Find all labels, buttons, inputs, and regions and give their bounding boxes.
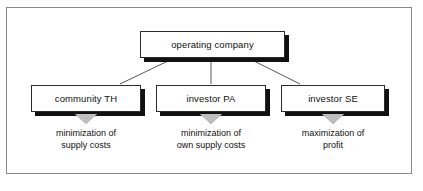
objective-line-1: maximization of xyxy=(273,128,393,140)
down-triangle-icon xyxy=(75,114,97,124)
objective-line-2: profit xyxy=(273,140,393,152)
node-investor-pa-label: investor PA xyxy=(187,94,236,104)
node-community-th-label: community TH xyxy=(55,94,117,104)
objective-line-1: minimization of xyxy=(26,128,146,140)
node-investor-pa[interactable]: investor PA xyxy=(156,85,266,112)
down-triangle-icon xyxy=(322,114,344,124)
node-community-th[interactable]: community TH xyxy=(31,85,141,112)
node-investor-se-label: investor SE xyxy=(308,94,358,104)
objective-investor-se: maximization of profit xyxy=(273,128,393,151)
objective-investor-pa: minimization of own supply costs xyxy=(151,128,271,151)
down-triangle-icon xyxy=(200,114,222,124)
objective-line-2: own supply costs xyxy=(151,140,271,152)
objective-line-2: supply costs xyxy=(26,140,146,152)
node-operating-company-label: operating company xyxy=(171,40,254,50)
diagram-canvas: operating company community TH investor … xyxy=(0,0,423,191)
node-operating-company[interactable]: operating company xyxy=(140,31,285,58)
objective-line-1: minimization of xyxy=(151,128,271,140)
node-investor-se[interactable]: investor SE xyxy=(281,85,385,112)
objective-community-th: minimization of supply costs xyxy=(26,128,146,151)
